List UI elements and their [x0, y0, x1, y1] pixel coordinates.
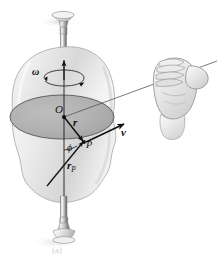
label-angle-phi: ϕ	[67, 143, 72, 153]
figure-canvas	[0, 0, 218, 260]
right-hand-rule-hand	[153, 58, 208, 139]
label-point-position-vector: rP	[67, 160, 76, 174]
label-rp-subscript: P	[71, 166, 75, 174]
label-angular-velocity: ω	[32, 67, 39, 77]
label-origin: O	[55, 104, 63, 115]
label-position-vector: r	[73, 117, 77, 128]
origin-dot	[62, 115, 66, 119]
bottom-pivot-spindle	[53, 196, 75, 243]
physics-figure-rotating-body: O r P v ω ϕ rP (a)	[0, 0, 218, 260]
label-velocity-vector: v	[121, 127, 126, 138]
figure-caption: (a)	[52, 246, 62, 255]
label-point-p: P	[86, 140, 92, 150]
